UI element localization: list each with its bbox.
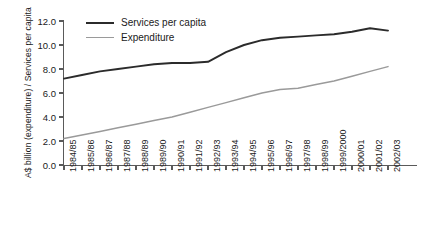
x-axis-tick-label: 1987/88 (122, 139, 132, 172)
x-axis-tick (117, 166, 118, 170)
x-axis-tick (315, 166, 316, 170)
x-axis-tick-label: 1998/99 (320, 139, 330, 172)
x-axis-tick-label: 1994/95 (248, 139, 258, 172)
x-axis-tick (351, 166, 352, 170)
x-axis-tick (333, 166, 334, 170)
x-axis-tick (81, 166, 82, 170)
x-axis-tick-label: 1997/98 (302, 139, 312, 172)
x-axis-tick (135, 166, 136, 170)
legend-line-swatch-icon (86, 37, 114, 38)
chart-container: A$ billion (expenditure) / Services per … (0, 0, 429, 235)
legend-item-label: Services per capita (121, 17, 206, 28)
legend-item: Expenditure (86, 30, 206, 45)
x-axis-tick-label: 1990/91 (176, 139, 186, 172)
series-layer (0, 0, 429, 235)
x-axis-tick-label: 1988/89 (140, 139, 150, 172)
legend-item: Services per capita (86, 15, 206, 30)
x-axis-tick (243, 166, 244, 170)
x-axis-tick (207, 166, 208, 170)
x-axis-tick-label: 1986/87 (104, 139, 114, 172)
chart-legend: Services per capitaExpenditure (86, 15, 206, 45)
series-line-expenditure (64, 67, 388, 139)
x-axis-tick-label: 2001/02 (374, 139, 384, 172)
x-axis-tick-label: 1995/96 (266, 139, 276, 172)
x-axis-tick-label: 2000/01 (356, 139, 366, 172)
x-axis-tick (279, 166, 280, 170)
legend-item-label: Expenditure (121, 32, 174, 43)
x-axis-tick (387, 166, 388, 170)
x-axis-tick-label: 1999/2000 (338, 129, 348, 172)
x-axis-tick (99, 166, 100, 170)
x-axis-tick-label: 1984/85 (68, 139, 78, 172)
x-axis-tick-label: 1992/93 (212, 139, 222, 172)
x-axis-tick-label: 1991/92 (194, 139, 204, 172)
x-axis-tick (369, 166, 370, 170)
x-axis-tick (297, 166, 298, 170)
x-axis-tick-label: 2002/03 (392, 139, 402, 172)
x-axis-tick-label: 1989/90 (158, 139, 168, 172)
x-axis-tick (189, 166, 190, 170)
x-axis-tick (261, 166, 262, 170)
x-axis-tick (225, 166, 226, 170)
x-axis-tick-label: 1996/97 (284, 139, 294, 172)
x-axis-tick-label: 1985/86 (86, 139, 96, 172)
legend-line-swatch-icon (86, 22, 114, 24)
x-axis-tick (153, 166, 154, 170)
x-axis-tick-label: 1993/94 (230, 139, 240, 172)
x-axis-tick (171, 166, 172, 170)
x-axis-tick (63, 166, 64, 170)
